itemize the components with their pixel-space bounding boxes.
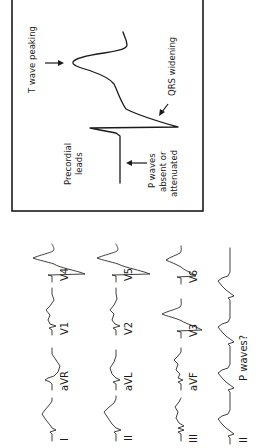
label-lead-aVF: aVF xyxy=(188,372,199,391)
p-wave-label-line3: attenuated xyxy=(169,150,179,197)
label-lead-V2: V2 xyxy=(123,322,134,335)
trace-lead-III xyxy=(175,398,184,441)
label-p-waves-question: P waves? xyxy=(238,335,249,381)
p-wave-label-line1: P waves xyxy=(147,153,157,188)
rhythm-strip: II P waves? xyxy=(218,248,249,444)
trace-lead-aVR xyxy=(45,348,60,390)
trace-lead-I xyxy=(42,398,56,441)
precordial-label-line2: leads xyxy=(74,152,84,175)
p-wave-label-line2: absent or xyxy=(158,151,168,192)
label-lead-V5: V5 xyxy=(123,268,134,281)
label-lead-V4: V4 xyxy=(59,268,70,281)
inset-box: T wave peaking QRS widening Precordial l… xyxy=(12,0,203,211)
ecg-hyperkalemia-figure: T wave peaking QRS widening Precordial l… xyxy=(0,0,263,448)
t-wave-label: T wave peaking xyxy=(27,26,37,94)
label-rhythm-II: II xyxy=(238,437,249,443)
trace-lead-V1 xyxy=(46,288,56,335)
qrs-label: QRS widening xyxy=(167,37,177,96)
t-wave-arrow xyxy=(45,60,64,66)
lead-row-3: III aVF V3 V6 xyxy=(162,246,202,443)
trace-lead-aVL xyxy=(110,350,120,390)
lead-row-2: II aVL V2 V5 xyxy=(97,244,150,441)
label-lead-V1: V1 xyxy=(59,322,70,335)
label-lead-I: I xyxy=(59,438,70,441)
label-lead-II: II xyxy=(123,435,134,441)
label-lead-III: III xyxy=(188,434,199,443)
trace-rhythm-II xyxy=(218,248,234,444)
trace-lead-aVF xyxy=(174,348,183,390)
trace-lead-V2 xyxy=(110,288,120,335)
label-lead-aVR: aVR xyxy=(59,371,70,391)
lead-row-1: I aVR V1 V4 xyxy=(33,244,85,441)
p-wave-arrow xyxy=(126,160,147,166)
label-lead-V6: V6 xyxy=(188,270,199,283)
qrs-arrow xyxy=(159,104,168,116)
label-lead-aVL: aVL xyxy=(123,372,134,391)
label-lead-V3: V3 xyxy=(188,324,199,337)
trace-lead-II xyxy=(104,396,121,441)
precordial-label-line1: Precordial xyxy=(63,143,73,185)
